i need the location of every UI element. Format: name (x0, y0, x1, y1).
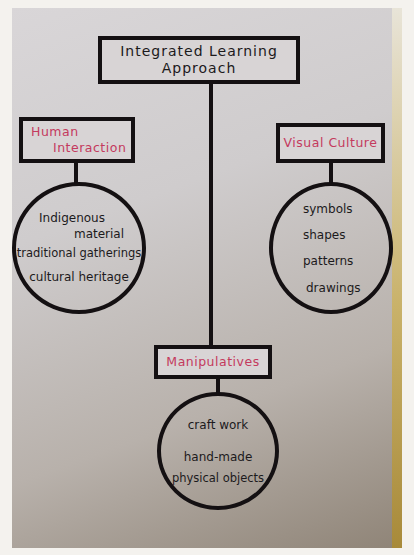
visual-culture-circle: symbols shapes patterns drawings (269, 182, 393, 314)
title-box: Integrated Learning Approach (98, 36, 300, 84)
human-interaction-box: Human Interaction (19, 117, 135, 163)
title-line-1: Integrated Learning (120, 43, 278, 61)
connector-main-vertical (209, 84, 213, 346)
item-hand-made: hand-made (184, 449, 253, 465)
title-line-2: Approach (162, 60, 237, 78)
item-traditional-gatherings: traditional gatherings (17, 246, 141, 262)
item-physical-objects: physical objects (172, 471, 264, 487)
visual-culture-label: Visual Culture (284, 135, 378, 151)
paper-edge (392, 8, 402, 548)
item-cultural-heritage: cultural heritage (29, 269, 129, 285)
manipulatives-label: Manipulatives (166, 354, 259, 370)
item-material: material (74, 226, 124, 242)
item-patterns: patterns (303, 253, 353, 269)
human-interaction-label-1: Human (31, 124, 79, 140)
item-shapes: shapes (303, 227, 345, 243)
visual-culture-box: Visual Culture (276, 123, 385, 163)
item-drawings: drawings (306, 280, 361, 296)
human-interaction-circle: Indigenous material traditional gatherin… (12, 182, 146, 314)
item-indigenous: Indigenous (39, 210, 105, 226)
manipulatives-circle: craft work hand-made physical objects (157, 392, 279, 510)
human-interaction-label-2: Interaction (31, 140, 126, 156)
item-symbols: symbols (303, 201, 353, 217)
manipulatives-box: Manipulatives (154, 345, 272, 379)
item-craft-work: craft work (188, 417, 248, 433)
